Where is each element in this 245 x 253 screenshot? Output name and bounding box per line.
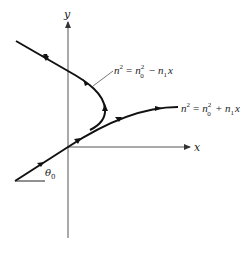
ray-decreasing-index: n2=n20−n1x [16,41,173,130]
equation-increasing: n2=n20+n1x [181,101,240,118]
equation-decreasing: n2=n20−n1x [114,63,173,80]
direction-arrow-icon [102,104,108,111]
ray-path-decreasing [16,41,105,130]
y-axis-label: y [63,8,71,21]
ray-path-increasing [15,107,178,181]
ray-bending-diagram: y x n2=n20−n1x n2=n20+n1x θ0 [0,0,245,253]
leader-line [93,71,113,86]
axes: y x [63,8,201,238]
x-axis-label: x [194,141,201,154]
angle-theta0-label: θ0 [45,167,56,181]
